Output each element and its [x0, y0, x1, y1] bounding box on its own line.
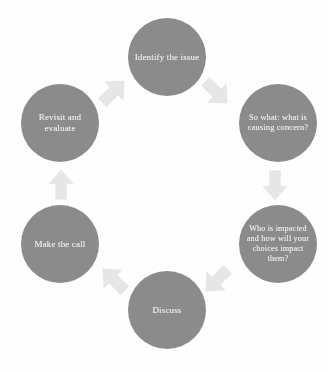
cycle-node-so-what: So what: what is causing concern? — [239, 84, 317, 162]
arrow-sowhat-to-who — [258, 168, 292, 202]
cycle-node-label: Who is impacted and how will your choice… — [239, 224, 317, 264]
cycle-node-discuss: Discuss — [128, 271, 206, 349]
arrow-who-to-discuss — [199, 262, 235, 298]
cycle-node-who-is-impacted: Who is impacted and how will your choice… — [239, 205, 317, 283]
cycle-node-revisit-and-evaluate: Revisit and evaluate — [21, 84, 99, 162]
cycle-node-label: Revisit and evaluate — [21, 112, 99, 134]
cycle-diagram: Identify the issue So what: what is caus… — [0, 0, 328, 372]
cycle-node-label: Identify the issue — [129, 52, 206, 63]
arrow-revisit-to-identify — [95, 74, 131, 110]
cycle-node-label: Make the call — [29, 239, 92, 250]
cycle-node-identify-the-issue: Identify the issue — [128, 18, 206, 96]
cycle-node-label: Discuss — [146, 305, 187, 316]
arrow-makecall-to-revisit — [44, 168, 78, 202]
arrow-discuss-to-makecall — [96, 262, 132, 298]
arrow-identify-to-sowhat — [198, 74, 234, 110]
cycle-node-label: So what: what is causing concern? — [239, 113, 317, 134]
cycle-node-make-the-call: Make the call — [21, 205, 99, 283]
